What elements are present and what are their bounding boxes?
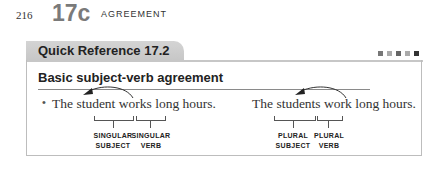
subject-label: PLURALSUBJECT <box>269 131 317 151</box>
verb-bracket <box>136 116 166 121</box>
agreement-arrow-icon <box>0 0 446 170</box>
label-line: PLURAL <box>269 131 317 141</box>
subject-bracket-stem <box>293 121 294 128</box>
label-line: VERB <box>126 141 176 151</box>
verb-word: work <box>324 96 352 111</box>
label-line: SINGULAR <box>126 131 176 141</box>
verb-bracket-stem <box>328 121 329 128</box>
verb-label: PLURALVERB <box>311 131 347 151</box>
label-line: VERB <box>311 141 347 151</box>
subject-bracket <box>274 116 316 121</box>
sentence-text: long hours. <box>352 96 416 111</box>
label-line: SUBJECT <box>269 141 317 151</box>
label-line: PLURAL <box>311 131 347 141</box>
verb-bracket <box>317 116 343 121</box>
subject-bracket-stem <box>113 121 114 128</box>
verb-bracket-stem <box>150 121 151 128</box>
example-sentence-2: The students work long hours. <box>252 96 416 112</box>
subject-word: students <box>276 96 320 111</box>
subject-bracket <box>94 116 134 121</box>
sentence-text: The <box>252 96 276 111</box>
verb-label: SINGULARVERB <box>126 131 176 151</box>
